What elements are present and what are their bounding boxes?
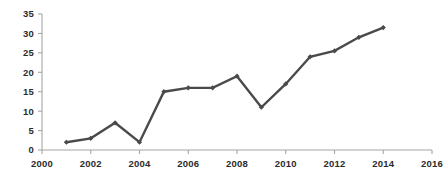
y-axis-tick-label: 25: [23, 47, 34, 58]
chart-canvas: 05101520253035 2000200220042006200820102…: [0, 0, 444, 176]
x-axis-tick-label: 2000: [31, 158, 53, 169]
x-axis-tick-label: 2008: [226, 158, 248, 169]
x-axis-tick-label: 2016: [421, 158, 443, 169]
y-axis-tick-label: 20: [23, 67, 34, 78]
line-chart: 05101520253035 2000200220042006200820102…: [0, 0, 444, 176]
x-axis-tick-label: 2002: [80, 158, 102, 169]
x-axis-tick-label: 2012: [324, 158, 346, 169]
x-axis-tick-label: 2014: [372, 158, 394, 169]
x-axis-tick-label: 2010: [275, 158, 297, 169]
y-axis-tick-label: 35: [23, 8, 34, 19]
y-axis-tick-label: 0: [29, 144, 34, 155]
x-axis-tick-label: 2004: [129, 158, 151, 169]
y-axis-tick-label: 10: [23, 106, 34, 117]
y-axis-tick-label: 15: [23, 86, 34, 97]
y-axis-tick-label: 5: [29, 125, 35, 136]
y-axis-tick-label: 30: [23, 28, 34, 39]
x-axis-tick-label: 2006: [177, 158, 199, 169]
